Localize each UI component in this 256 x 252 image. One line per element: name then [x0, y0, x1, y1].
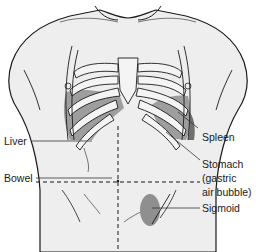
anatomy-diagram: Liver Bowel Spleen Stomach (gastric air … — [0, 0, 256, 252]
label-liver: Liver — [4, 135, 27, 147]
sigmoid-shading — [140, 194, 160, 226]
label-spleen: Spleen — [202, 131, 235, 143]
label-stomach-line2: (gastric — [202, 172, 236, 184]
label-stomach-line1: Stomach — [202, 158, 243, 170]
label-stomach-line3: air bubble) — [202, 186, 252, 198]
umbilicus — [117, 180, 119, 182]
torso-illustration — [0, 0, 256, 252]
label-bowel: Bowel — [4, 172, 33, 184]
label-sigmoid: Sigmoid — [202, 202, 240, 214]
